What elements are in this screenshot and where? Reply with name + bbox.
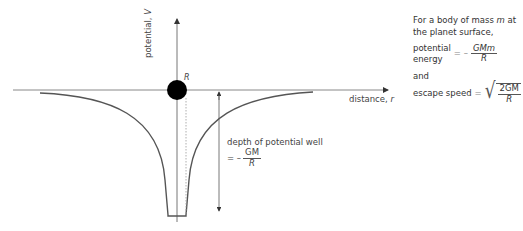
- escape-denominator: R: [506, 95, 512, 105]
- x-axis-label: distance, r: [349, 94, 394, 104]
- depth-formula-prefix: = –: [227, 153, 241, 163]
- escape-numerator: 2GM: [498, 84, 521, 95]
- escape-label: escape speed: [413, 88, 472, 100]
- planet-radius-label: R: [184, 73, 190, 83]
- x-axis-label-text: distance,: [349, 94, 390, 104]
- potential-curve-left: [40, 93, 168, 215]
- escape-equals: =: [475, 88, 482, 100]
- and-label: and: [413, 71, 521, 83]
- intro-text-part: For a body of mass: [413, 15, 497, 25]
- pe-label-line2: energy: [413, 54, 451, 65]
- pe-label-line1: potential: [413, 43, 451, 54]
- y-axis-label: potential, V: [143, 9, 153, 58]
- formula-panel: For a body of mass m at the planet surfa…: [413, 15, 521, 104]
- depth-formula-denominator: R: [249, 159, 255, 169]
- depth-label: depth of potential well = – GM R: [227, 137, 323, 169]
- mass-symbol: m: [497, 15, 505, 25]
- y-axis-symbol: V: [143, 9, 153, 15]
- pe-denominator: R: [481, 54, 487, 64]
- pe-fraction: GMm R: [471, 44, 497, 65]
- depth-formula-fraction: GM R: [243, 148, 261, 169]
- escape-fraction: 2GM R: [498, 84, 521, 105]
- planet: [167, 80, 187, 100]
- radical-sign-icon: √: [485, 80, 496, 108]
- pe-equals: = –: [454, 48, 468, 60]
- escape-speed-formula: escape speed = √ 2GM R: [413, 83, 521, 105]
- x-axis-symbol: r: [390, 94, 394, 104]
- depth-label-text: depth of potential well: [227, 137, 323, 147]
- y-axis-label-text: potential,: [143, 15, 153, 58]
- potential-energy-formula: potential energy = – GMm R: [413, 43, 521, 65]
- square-root: √ 2GM R: [485, 83, 521, 105]
- intro-text: For a body of mass m at the planet surfa…: [413, 15, 521, 39]
